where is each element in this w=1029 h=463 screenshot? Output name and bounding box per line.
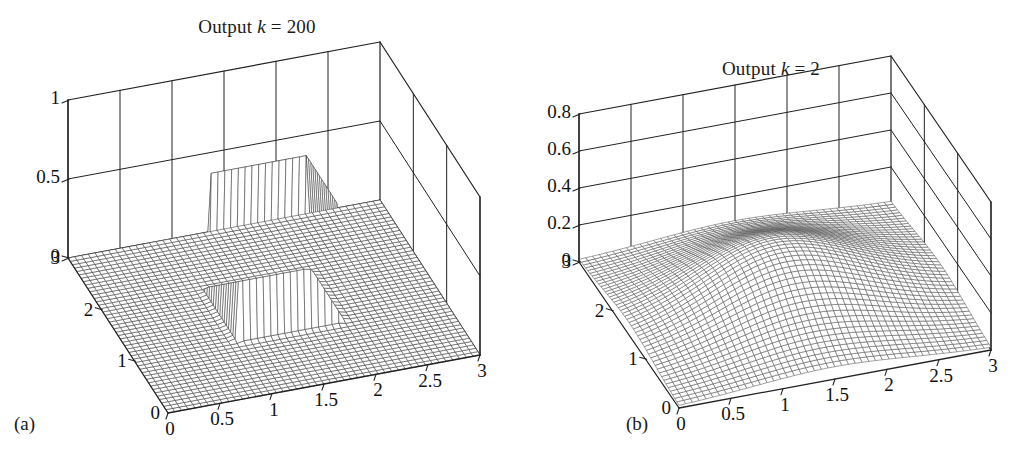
x-tick-label: 1.5 [314,389,338,410]
z-tick-label: 1 [51,87,61,108]
y-tick-label: 2 [595,300,605,321]
z-tick-label: 0.8 [547,101,571,122]
y-tick-label: 1 [117,350,127,371]
panel-b-surface-plot: 00.20.40.60.8123000.511.522.53 [514,0,1028,463]
z-tick-label: 0.2 [547,212,571,233]
x-tick-label: 0.5 [721,403,745,424]
figure-container: Output k = 200 00.51123000.511.522.53 (a… [0,0,1029,463]
panel-a: Output k = 200 00.51123000.511.522.53 (a… [0,0,514,463]
y-tick-label: 3 [51,247,61,268]
y-tick-label: 0 [662,397,672,418]
panel-a-caption: (a) [14,413,35,435]
x-tick-label: 2 [884,374,894,395]
x-tick-label: 3 [988,355,998,376]
x-tick-label: 2.5 [418,370,442,391]
z-tick-label: 0.5 [36,166,60,187]
x-tick-label: 1.5 [825,384,849,405]
x-tick-label: 3 [477,360,487,381]
z-tick-label: 0.6 [547,138,571,159]
y-tick-label: 0 [151,402,161,423]
x-tick-label: 1 [269,399,279,420]
z-tick-label: 0.4 [547,175,571,196]
x-tick-label: 0.5 [210,408,234,429]
x-tick-label: 0 [165,418,175,439]
y-tick-label: 2 [84,299,94,320]
x-tick-label: 1 [780,394,790,415]
x-tick-label: 2 [373,379,383,400]
panel-a-surface-plot: 00.51123000.511.522.53 [0,0,514,463]
y-tick-label: 1 [628,348,638,369]
y-tick-label: 3 [562,251,572,272]
panel-b: Output k = 2 00.20.40.60.8123000.511.522… [514,0,1028,463]
x-tick-label: 0 [676,413,686,434]
panel-b-caption: (b) [626,413,648,435]
x-tick-label: 2.5 [929,365,953,386]
